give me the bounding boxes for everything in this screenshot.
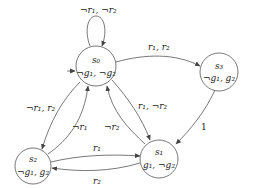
label-s2-s0: ¬r₁ bbox=[72, 122, 87, 132]
node-s3-name: s₃ bbox=[215, 61, 224, 71]
node-s1-props: g₁, ¬g₂ bbox=[143, 160, 175, 170]
node-s0: s₀ ¬g₁, ¬g₂ bbox=[76, 46, 116, 86]
label-s0-s3: r₁, r₂ bbox=[148, 42, 170, 52]
node-s1-name: s₁ bbox=[155, 147, 163, 157]
label-s0-s2: ¬r₁, r₂ bbox=[26, 103, 55, 113]
edge-labels: ¬r₁, ¬r₂ r₁, r₂ ¬r₁, r₂ r₁, ¬r₂ ¬r₁ ¬r₂ … bbox=[26, 5, 207, 186]
edge-s1-s0 bbox=[107, 86, 145, 144]
label-s1-s2: r₂ bbox=[93, 176, 101, 186]
node-s1: s₁ g₁, ¬g₂ bbox=[140, 140, 178, 178]
edge-s0-s3 bbox=[116, 56, 200, 66]
edges bbox=[42, 16, 215, 171]
node-s3: s₃ ¬g₁, g₂ bbox=[200, 53, 238, 91]
node-s2: s₂ ¬g₁, g₂ bbox=[15, 148, 51, 184]
edge-s3-s1 bbox=[176, 90, 215, 144]
state-diagram: ¬r₁, ¬r₂ r₁, r₂ ¬r₁, r₂ r₁, ¬r₂ ¬r₁ ¬r₂ … bbox=[0, 0, 257, 188]
label-s0-s0: ¬r₁, ¬r₂ bbox=[80, 5, 117, 15]
edge-s2-s1 bbox=[51, 155, 140, 162]
label-s1-s0: ¬r₂ bbox=[104, 122, 120, 132]
edge-s0-s2 bbox=[42, 82, 80, 149]
node-s0-name: s₀ bbox=[92, 55, 101, 65]
node-s2-props: ¬g₁, g₂ bbox=[17, 167, 49, 177]
node-s2-name: s₂ bbox=[29, 154, 38, 164]
node-s0-props: ¬g₁, ¬g₂ bbox=[76, 68, 116, 78]
label-s3-s1: 1 bbox=[201, 122, 207, 132]
edge-s0-s0 bbox=[87, 16, 105, 46]
label-s0-s1: r₁, ¬r₂ bbox=[138, 101, 167, 111]
edge-s1-s2 bbox=[52, 163, 140, 171]
node-s3-props: ¬g₁, g₂ bbox=[203, 73, 235, 83]
label-s2-s1: r₁ bbox=[93, 143, 101, 153]
